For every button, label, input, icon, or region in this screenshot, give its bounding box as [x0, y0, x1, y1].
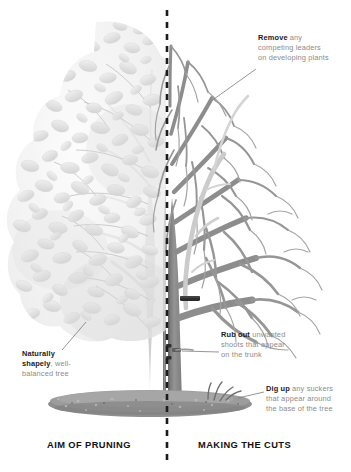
foliage-canopy [0, 10, 180, 355]
leader-line-rubout [182, 351, 219, 352]
callout-dig-up: Dig up any suckers that appear around th… [266, 384, 333, 415]
callout-natural-line2-rest: , well- [51, 359, 71, 368]
callout-remove: Remove any competing leaders on developi… [258, 33, 329, 64]
callout-digup-line2: that appear around [266, 394, 333, 404]
callout-natural-line3: balanced tree [22, 369, 71, 379]
leader-line-digup [238, 392, 264, 398]
primary-branches [170, 46, 256, 318]
caption-aim-of-pruning: AIM OF PRUNING [47, 440, 131, 450]
pruning-diagram-figure: Remove any competing leaders on developi… [0, 0, 351, 472]
callout-rubout-line2: shoots that appear [221, 340, 285, 350]
callout-remove-line3: on developing plants [258, 53, 329, 63]
callout-rubout-line3: on the trunk [221, 350, 285, 360]
callout-natural-line1: Naturally [22, 349, 55, 358]
callout-rubout-lead: Rub out [221, 330, 250, 339]
callout-natural-lead: shapely [22, 359, 51, 368]
caption-making-the-cuts: MAKING THE CUTS [198, 440, 291, 450]
callout-remove-line1-rest: any [288, 33, 303, 42]
callout-rubout-line1-rest: unwanted [250, 330, 285, 339]
callout-digup-line3: the base of the tree [266, 404, 333, 414]
callout-naturally-shapely: Naturally shapely, well- balanced tree [22, 349, 71, 380]
callout-digup-lead: Dig up [266, 384, 290, 393]
callout-digup-line1-rest: any suckers [290, 384, 333, 393]
callout-rub-out: Rub out unwanted shoots that appear on t… [221, 330, 285, 361]
leader-line-remove [214, 69, 256, 99]
foliated-tree-group [0, 10, 180, 404]
tree-trunk [168, 198, 182, 404]
pruning-cut-marker [180, 296, 200, 301]
callout-remove-line2: competing leaders [258, 43, 329, 53]
callout-remove-lead: Remove [258, 33, 288, 42]
